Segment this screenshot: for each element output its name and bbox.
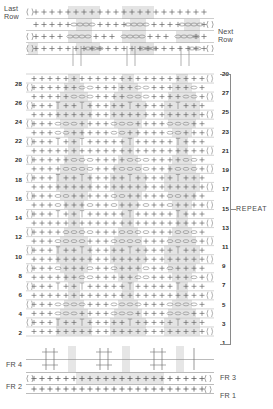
row-number-24: 24 [8, 119, 22, 125]
foundation-rows-diagram [26, 346, 214, 398]
row-number-8: 8 [8, 273, 22, 279]
row-number-6: 6 [8, 292, 22, 298]
row-number-18: 18 [8, 177, 22, 183]
row-number-14: 14 [8, 215, 22, 221]
last-row-label: Last Row [4, 5, 19, 22]
next-row-label: Next Row [218, 28, 233, 45]
stitch-chart-page: Last Row Next Row [0, 0, 273, 409]
main-pattern-diagram [26, 72, 214, 342]
row-number-4: 4 [8, 311, 22, 317]
row-number-16: 16 [8, 196, 22, 202]
fr1-label: FR 1 [220, 392, 236, 400]
row-number-22: 22 [8, 138, 22, 144]
repeat-bracket [220, 74, 231, 345]
row-number-12: 12 [8, 234, 22, 240]
row-number-26: 26 [8, 100, 22, 106]
fr2-label: FR 2 [6, 383, 22, 391]
repeat-label: REPEAT [236, 205, 267, 213]
row-number-28: 28 [8, 81, 22, 87]
row-number-2: 2 [8, 330, 22, 336]
fr3-label: FR 3 [220, 374, 236, 382]
row-number-20: 20 [8, 157, 22, 163]
row-number-10: 10 [8, 254, 22, 260]
fr4-label: FR 4 [6, 361, 22, 369]
top-band-diagram [26, 6, 214, 68]
